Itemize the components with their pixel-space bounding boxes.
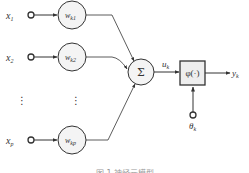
input-1-node-icon (28, 12, 34, 18)
figure-caption: 图 1 神经元模型 (96, 168, 154, 173)
input-2-node-icon (28, 54, 34, 60)
input-2-label: x2 (5, 52, 13, 64)
threshold-node-icon (190, 112, 196, 118)
neuron-diagram: x1 wk1 x2 wk2 ⋮ ⋮ xp wkp Σ uk φ(·) yk θk (0, 0, 249, 173)
input-p-label: xp (5, 135, 13, 147)
input-1-label: x1 (5, 10, 13, 22)
weight-ellipsis: ⋮ (71, 95, 81, 106)
activation-label: φ(·) (185, 68, 199, 78)
summation-symbol: Σ (137, 66, 145, 79)
input-2: x2 wk2 (5, 43, 127, 71)
output-label: yk (231, 68, 239, 79)
threshold-label: θk (189, 121, 196, 132)
net-input-label: uk (162, 59, 170, 70)
input-ellipsis: ⋮ (17, 95, 27, 106)
input-p-node-icon (28, 137, 34, 143)
